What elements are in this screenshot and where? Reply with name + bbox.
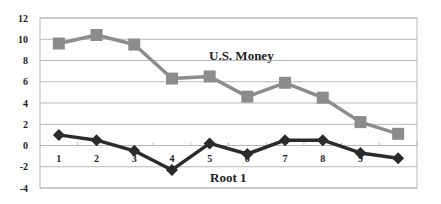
square-marker <box>204 70 216 82</box>
series-label-root1: Root 1 <box>210 170 246 185</box>
diamond-marker <box>53 129 65 141</box>
series-label-us-money: U.S. Money <box>209 48 274 63</box>
x-axis-tick-labels: 123456789 <box>56 153 363 164</box>
x-tick-label: 5 <box>207 153 212 164</box>
series-line <box>59 135 398 170</box>
y-tick-label: 2 <box>23 119 28 130</box>
y-tick-label: 4 <box>23 98 28 109</box>
y-tick-label: 12 <box>18 13 28 24</box>
square-marker <box>279 77 291 89</box>
y-tick-label: 6 <box>23 76 28 87</box>
diamond-marker <box>317 134 329 146</box>
y-tick-label: 8 <box>23 55 28 66</box>
square-marker <box>241 91 253 103</box>
square-marker <box>392 128 404 140</box>
y-tick-label: 10 <box>18 34 28 45</box>
y-tick-label: -2 <box>20 161 28 172</box>
diamond-marker <box>279 134 291 146</box>
square-marker <box>354 116 366 128</box>
diamond-marker <box>241 148 253 160</box>
diamond-marker <box>91 134 103 146</box>
series-root-1 <box>53 129 404 176</box>
square-marker <box>166 73 178 85</box>
diamond-marker <box>354 147 366 159</box>
y-axis-tick-labels: 121086420-2-4 <box>18 13 28 194</box>
x-tick-label: 4 <box>169 153 174 164</box>
x-tick-label: 7 <box>283 153 288 164</box>
diamond-marker <box>392 152 404 164</box>
square-marker <box>53 38 65 50</box>
y-tick-label: 0 <box>23 140 28 151</box>
x-tick-label: 8 <box>320 153 325 164</box>
square-marker <box>317 92 329 104</box>
diamond-marker <box>128 145 140 157</box>
series-u-s-money <box>53 29 404 140</box>
y-tick-label: -4 <box>20 183 28 194</box>
square-marker <box>128 39 140 51</box>
square-marker <box>91 29 103 41</box>
line-chart: 121086420-2-4 123456789 U.S. Money Root … <box>0 0 441 204</box>
x-tick-label: 2 <box>94 153 99 164</box>
x-tick-label: 1 <box>56 153 61 164</box>
